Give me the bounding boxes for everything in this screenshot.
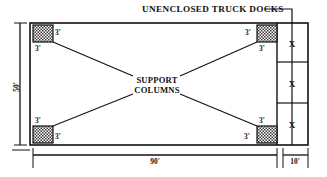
- support-column-top-left: [33, 25, 53, 42]
- column-dim-bottom-right-above: 3': [259, 116, 265, 125]
- column-dim-top-left-below: 3': [35, 44, 41, 53]
- column-dim-top-left-right: 3': [55, 28, 61, 37]
- warehouse-floor-plan: UNENCLOSED TRUCK DOCKS X X X 3' 3' 3' 3'…: [0, 0, 327, 177]
- diagram-title: UNENCLOSED TRUCK DOCKS: [142, 4, 284, 14]
- dimension-label-width-main: 90': [150, 157, 159, 166]
- dimension-label-height: 50': [12, 82, 21, 91]
- center-label-line-1: SUPPORT: [136, 75, 177, 85]
- column-dim-top-right-below: 3': [259, 44, 265, 53]
- column-dim-top-right-left: 3': [245, 28, 251, 37]
- dock-bay-mark-1: X: [289, 39, 296, 49]
- support-column-bottom-right: [257, 126, 277, 143]
- column-dim-bottom-left-above: 3': [35, 116, 41, 125]
- dock-bay-mark-3: X: [289, 120, 296, 130]
- center-label-line-2: COLUMNS: [134, 85, 179, 95]
- column-dim-bottom-right-right: 3': [244, 132, 250, 141]
- column-dim-bottom-left-right: 3': [55, 132, 61, 141]
- dock-bay-mark-2: X: [289, 79, 296, 89]
- support-column-top-right: [257, 25, 277, 42]
- dimension-label-width-dock: 10': [290, 157, 299, 166]
- support-column-bottom-left: [33, 126, 53, 143]
